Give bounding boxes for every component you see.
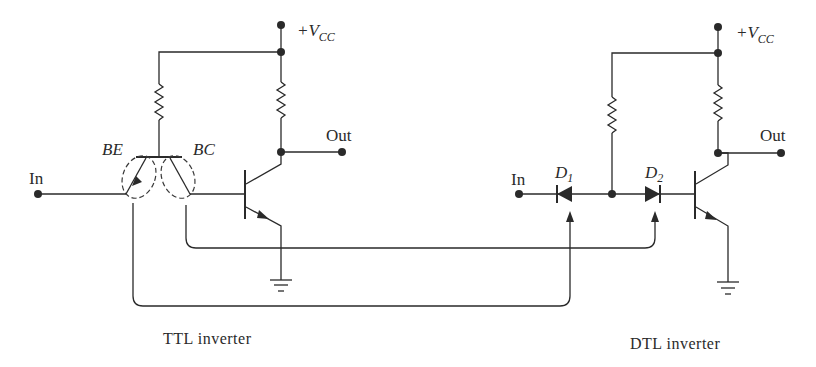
- be-to-d1-arrow: [133, 203, 570, 306]
- dtl-collector-resistor-icon: [714, 85, 722, 121]
- dtl-d1-label: D1: [554, 163, 573, 185]
- dtl-out-label: Out: [760, 126, 786, 145]
- ttl-be-junction-outline: [116, 151, 162, 204]
- dtl-in-label: In: [511, 170, 526, 189]
- ttl-base-resistor-icon: [155, 84, 163, 120]
- ttl-out-label: Out: [326, 126, 352, 145]
- dtl-inverter: +VCC Out In D1 D2 DTL inverter: [511, 23, 786, 352]
- diode-d2-icon: [645, 185, 660, 203]
- ttl-caption: TTL inverter: [163, 330, 252, 347]
- ttl-be-label: BE: [102, 140, 123, 159]
- be-to-d1-arrowhead-icon: [566, 211, 574, 222]
- ttl-bc-collector-lead: [170, 158, 190, 194]
- bc-to-d2-arrowhead-icon: [651, 211, 659, 222]
- ttl-output-collector-lead: [246, 152, 281, 184]
- ttl-top-rail: [159, 52, 281, 84]
- bc-to-d2-arrow: [186, 205, 655, 248]
- dtl-out-terminal: [777, 149, 785, 157]
- ttl-vcc-label: +VCC: [297, 21, 336, 44]
- dtl-ground-icon: [717, 282, 739, 294]
- dtl-output-emitter-arrow-icon: [705, 211, 717, 220]
- mapping-arrows: [133, 203, 659, 306]
- ttl-output-emitter-arrow-icon: [257, 210, 269, 219]
- circuit-diagram: +VCC Out In BE BC TTL inverter: [0, 0, 816, 367]
- ttl-out-terminal: [338, 148, 346, 156]
- dtl-caption: DTL inverter: [630, 335, 720, 352]
- dtl-top-rail: [612, 53, 718, 97]
- dtl-output-collector-lead: [696, 153, 728, 184]
- ttl-inverter: +VCC Out In BE BC TTL inverter: [29, 21, 352, 347]
- ttl-bc-label: BC: [193, 140, 215, 159]
- dtl-bias-resistor-icon: [608, 97, 616, 133]
- ttl-ground-icon: [270, 280, 292, 291]
- dtl-vcc-label: +VCC: [736, 23, 775, 46]
- diode-d1-icon: [557, 185, 572, 203]
- dtl-diode-junction: [608, 190, 616, 198]
- ttl-in-label: In: [29, 169, 44, 188]
- ttl-collector-resistor-icon: [277, 82, 285, 118]
- dtl-d2-label: D2: [644, 163, 663, 185]
